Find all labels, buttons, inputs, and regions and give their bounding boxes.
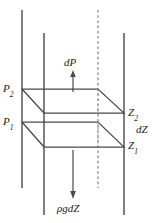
label-pressure-difference: dP bbox=[64, 57, 76, 68]
label-height-upper: Z2 bbox=[128, 107, 138, 121]
rho-g-dZ-arrow bbox=[70, 150, 76, 199]
label-height-upper-subscript: 2 bbox=[134, 114, 138, 123]
label-pressure-lower: P1 bbox=[3, 116, 13, 130]
label-pressure-upper-subscript: 2 bbox=[10, 90, 14, 99]
label-height-lower: Z1 bbox=[128, 140, 138, 154]
hydrostatic-pressure-figure: P2 P1 Z2 Z1 dZ dP ρgdZ bbox=[0, 0, 161, 223]
label-pressure-upper: P2 bbox=[3, 83, 13, 97]
label-weight-force: ρgdZ bbox=[57, 203, 79, 214]
lower-parallelogram bbox=[22, 122, 124, 147]
label-pressure-lower-symbol: P bbox=[3, 115, 10, 127]
label-height-lower-subscript: 1 bbox=[134, 147, 138, 156]
upper-parallelogram bbox=[22, 89, 124, 113]
label-height-difference: dZ bbox=[136, 124, 148, 135]
label-pressure-lower-subscript: 1 bbox=[10, 123, 14, 132]
label-pressure-upper-symbol: P bbox=[3, 82, 10, 94]
